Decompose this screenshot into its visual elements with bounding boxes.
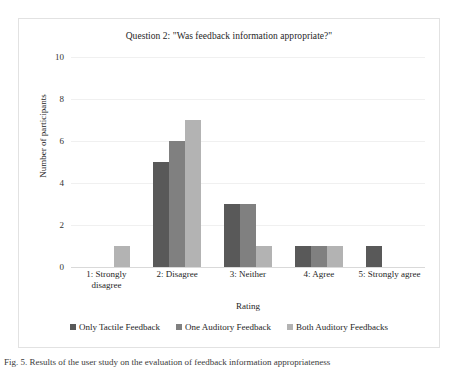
plot-area: 0246810 xyxy=(71,57,425,267)
legend-label: One Auditory Feedback xyxy=(185,322,271,332)
x-tick-label-3: 3: Neither xyxy=(213,269,284,291)
x-tick-label-1: 1: Strongly disagree xyxy=(71,269,142,291)
gridline: 0 xyxy=(71,267,425,268)
bar-group xyxy=(213,57,284,267)
y-axis-title: Number of participants xyxy=(38,66,48,206)
bar-group xyxy=(354,57,425,267)
bar[interactable] xyxy=(185,120,201,267)
y-tick-label: 0 xyxy=(60,262,65,272)
y-tick-label: 6 xyxy=(60,136,65,146)
bar[interactable] xyxy=(153,162,169,267)
bar[interactable] xyxy=(295,246,311,267)
legend-swatch-icon xyxy=(287,324,293,330)
legend-label: Only Tactile Feedback xyxy=(79,322,160,332)
legend-item-3[interactable]: Both Auditory Feedbacks xyxy=(287,322,388,332)
x-tick-label-4: 4: Agree xyxy=(283,269,354,291)
bar[interactable] xyxy=(114,246,130,267)
legend-item-1[interactable]: Only Tactile Feedback xyxy=(70,322,160,332)
x-axis-title: Rating xyxy=(71,301,425,311)
legend-swatch-icon xyxy=(176,324,182,330)
figure-caption: Fig. 5. Results of the user study on the… xyxy=(4,357,456,370)
bar[interactable] xyxy=(311,246,327,267)
y-tick-label: 4 xyxy=(60,178,65,188)
x-tick-label-2: 2: Disagree xyxy=(142,269,213,291)
y-tick-label: 8 xyxy=(60,94,65,104)
legend-label: Both Auditory Feedbacks xyxy=(296,322,388,332)
bar[interactable] xyxy=(224,204,240,267)
y-tick-label: 10 xyxy=(55,52,64,62)
chart-figure-frame: Question 2: "Was feedback information ap… xyxy=(18,18,440,348)
chart-title: Question 2: "Was feedback information ap… xyxy=(19,31,439,41)
bar[interactable] xyxy=(327,246,343,267)
bar-group xyxy=(71,57,142,267)
x-tick-label-5: 5: Strongly agree xyxy=(354,269,425,291)
bar[interactable] xyxy=(256,246,272,267)
bar[interactable] xyxy=(169,141,185,267)
bar-group xyxy=(283,57,354,267)
bar[interactable] xyxy=(366,246,382,267)
y-tick-label: 2 xyxy=(60,220,65,230)
chart-legend: Only Tactile FeedbackOne Auditory Feedba… xyxy=(19,322,439,332)
bar-group xyxy=(142,57,213,267)
x-axis-tick-labels: 1: Strongly disagree2: Disagree3: Neithe… xyxy=(71,269,425,291)
legend-swatch-icon xyxy=(70,324,76,330)
legend-item-2[interactable]: One Auditory Feedback xyxy=(176,322,271,332)
bar[interactable] xyxy=(240,204,256,267)
bar-groups xyxy=(71,57,425,267)
